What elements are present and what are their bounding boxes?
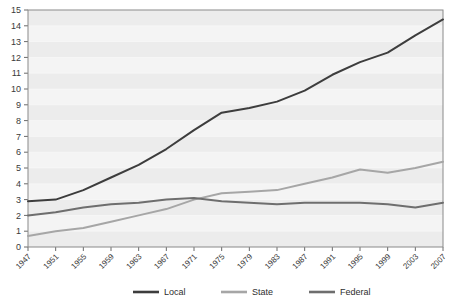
- y-tick-label: 0: [16, 242, 21, 252]
- y-tick-label: 5: [16, 163, 21, 173]
- line-chart: 0123456789101112131415 19471951195519591…: [0, 0, 461, 304]
- x-tick-label: 1979: [235, 252, 254, 271]
- plot-band: [28, 136, 443, 152]
- x-tick-label: 1967: [152, 252, 171, 271]
- plot-band: [28, 73, 443, 89]
- y-tick-label: 11: [12, 68, 21, 78]
- x-tick-label: 1995: [346, 252, 365, 271]
- x-tick-label: 1951: [42, 252, 61, 271]
- y-axis-tick-labels: 0123456789101112131415: [11, 5, 21, 252]
- y-axis-ticks: [24, 10, 28, 247]
- y-tick-label: 9: [16, 100, 21, 110]
- x-tick-label: 1983: [263, 252, 282, 271]
- y-tick-label: 12: [11, 53, 21, 63]
- y-tick-label: 13: [11, 37, 21, 47]
- x-axis-ticks: [28, 247, 443, 251]
- y-tick-label: 14: [11, 21, 21, 31]
- y-tick-label: 10: [11, 84, 21, 94]
- y-tick-label: 2: [16, 211, 21, 221]
- x-tick-label: 1971: [180, 252, 199, 271]
- legend-label-federal: Federal: [340, 287, 371, 297]
- x-tick-label: 1987: [291, 252, 310, 271]
- legend-label-local: Local: [164, 287, 186, 297]
- y-tick-label: 8: [16, 116, 21, 126]
- chart-legend: LocalStateFederal: [133, 287, 371, 297]
- y-tick-label: 1: [16, 226, 21, 236]
- x-tick-label: 1959: [97, 252, 116, 271]
- y-tick-label: 4: [16, 179, 21, 189]
- plot-band: [28, 10, 443, 26]
- y-tick-label: 7: [16, 132, 21, 142]
- y-tick-label: 6: [16, 147, 21, 157]
- x-axis-tick-labels: 1947195119551959196319671971197519791983…: [14, 252, 448, 271]
- chart-canvas: 0123456789101112131415 19471951195519591…: [0, 0, 461, 304]
- y-tick-label: 3: [16, 195, 21, 205]
- x-tick-label: 1947: [14, 252, 33, 271]
- plot-band: [28, 168, 443, 184]
- x-tick-label: 1963: [125, 252, 144, 271]
- plot-band: [28, 105, 443, 121]
- legend-label-state: State: [252, 287, 273, 297]
- x-tick-label: 1955: [69, 252, 88, 271]
- y-tick-label: 15: [11, 5, 21, 15]
- x-tick-label: 1975: [208, 252, 227, 271]
- x-tick-label: 2007: [429, 252, 448, 271]
- plot-background: [28, 10, 443, 247]
- x-tick-label: 2003: [401, 252, 420, 271]
- plot-band: [28, 231, 443, 247]
- x-tick-label: 1999: [374, 252, 393, 271]
- x-tick-label: 1991: [318, 252, 337, 271]
